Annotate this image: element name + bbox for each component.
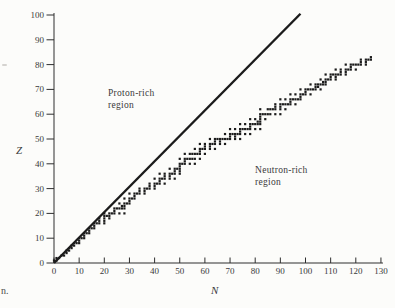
caption-text-fragment: n.	[1, 285, 9, 296]
x-tick-label: 40	[150, 266, 160, 276]
y-tick-label: 80	[35, 60, 45, 70]
x-tick-label: 0	[52, 266, 57, 276]
x-tick-label: 70	[226, 266, 236, 276]
y-tick-label: 50	[35, 134, 45, 144]
x-tick-label: 20	[100, 266, 110, 276]
nuclide-stability-chart-figure: 0102030405060708090100110120130010203040…	[0, 0, 395, 308]
axis-ticks	[47, 15, 381, 263]
x-tick-label: 110	[324, 266, 338, 276]
scan-artifact-mark	[2, 64, 7, 66]
proton-rich-region-label: Proton-rich region	[108, 88, 155, 111]
y-tick-label: 20	[35, 208, 45, 218]
y-tick-label: 0	[40, 258, 45, 268]
neutron-rich-region-label-line1: Neutron-rich	[255, 165, 308, 177]
neutron-rich-region-label: Neutron-rich region	[255, 165, 308, 188]
proton-rich-region-label-line2: region	[108, 100, 155, 112]
x-tick-label: 120	[349, 266, 363, 276]
stable-nuclide-points	[53, 56, 372, 262]
y-tick-label: 60	[35, 109, 45, 119]
y-tick-label: 100	[31, 10, 45, 20]
x-tick-label: 10	[75, 266, 85, 276]
y-tick-label: 40	[35, 159, 45, 169]
y-axis-title: Z	[16, 144, 22, 156]
x-tick-label: 90	[276, 266, 286, 276]
x-tick-label: 30	[125, 266, 135, 276]
neutron-rich-region-label-line2: region	[255, 177, 308, 189]
x-tick-label: 80	[251, 266, 261, 276]
chart-canvas: 0102030405060708090100110120130010203040…	[0, 0, 395, 308]
y-tick-label: 70	[35, 84, 45, 94]
x-tick-label: 60	[200, 266, 210, 276]
x-tick-label: 50	[175, 266, 185, 276]
x-tick-label: 130	[374, 266, 388, 276]
x-tick-label: 100	[299, 266, 313, 276]
x-axis-title: N	[211, 284, 218, 296]
y-tick-label: 10	[35, 233, 45, 243]
y-tick-label: 30	[35, 184, 45, 194]
z-equals-n-line	[54, 14, 300, 263]
y-tick-label: 90	[35, 35, 45, 45]
proton-rich-region-label-line1: Proton-rich	[108, 88, 155, 100]
